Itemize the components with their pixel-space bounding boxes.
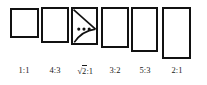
ratio-label-row: 1:1 4:3 √2:1 3:2 5:3 2:1 (0, 62, 207, 85)
construction-arc (74, 29, 95, 42)
ratio-rectangle-3-2 (101, 7, 129, 48)
diagonal-line (74, 10, 96, 30)
construction-dot (88, 28, 91, 31)
ratio-suffix: :1 (87, 66, 94, 76)
ratio-label-2-1: 2:1 (156, 65, 198, 76)
ratio-rectangle-4-3 (41, 7, 69, 43)
ratio-rectangle-5-3 (131, 7, 158, 52)
radicand: 2 (82, 65, 87, 76)
rectangle-row (0, 0, 207, 62)
aspect-ratio-figure: 1:1 4:3 √2:1 3:2 5:3 2:1 (0, 0, 207, 85)
construction-dot (77, 28, 80, 31)
radical-group: √2 (77, 65, 87, 77)
ratio-rectangle-2-1 (162, 7, 191, 59)
ratio-rectangle-1-1 (10, 8, 39, 38)
sqrt2-construction-art (73, 9, 96, 43)
ratio-rectangle-sqrt2-1 (71, 7, 98, 45)
construction-dot (82, 28, 85, 31)
